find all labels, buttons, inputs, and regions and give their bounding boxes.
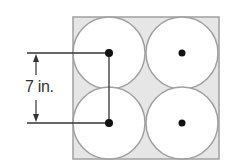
arrowhead-down-icon xyxy=(33,114,39,122)
arrowhead-up-icon xyxy=(33,54,39,62)
center-dot-top-left xyxy=(105,49,113,57)
center-dot-bottom-left xyxy=(105,119,113,127)
dimension-label: 7 in. xyxy=(25,78,54,96)
center-dot-bottom-right xyxy=(179,120,186,127)
center-dot-top-right xyxy=(179,50,186,57)
